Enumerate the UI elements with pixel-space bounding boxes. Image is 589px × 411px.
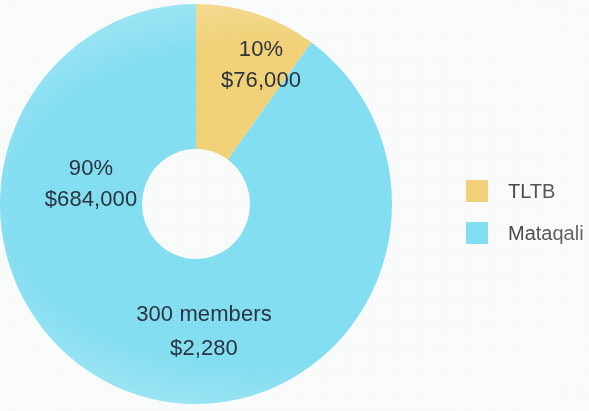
legend-item-tltb[interactable]: TLTB [466, 178, 589, 204]
tltb-percent-text: 10% [186, 33, 336, 64]
chart-legend: TLTB Mataqali [466, 178, 589, 246]
legend-item-mataqali[interactable]: Mataqali [466, 220, 589, 246]
slice-label-tltb: 10% $76,000 [186, 33, 336, 95]
members-amount-text: $2,280 [104, 332, 304, 363]
members-count-text: 300 members [104, 298, 304, 329]
mataqali-amount-text: $684,000 [12, 183, 170, 214]
slice-label-mataqali: 90% $684,000 [12, 152, 170, 214]
legend-swatch-mataqali [466, 222, 488, 244]
members-annotation: 300 members $2,280 [104, 298, 304, 363]
legend-label-mataqali: Mataqali [508, 222, 584, 244]
donut-chart: 10% $76,000 90% $684,000 300 members $2,… [0, 0, 589, 411]
tltb-amount-text: $76,000 [186, 64, 336, 95]
legend-swatch-tltb [466, 180, 488, 202]
mataqali-percent-text: 90% [12, 152, 170, 183]
legend-label-tltb: TLTB [508, 180, 555, 202]
